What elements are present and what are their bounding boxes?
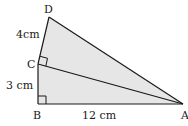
vertex-label-a: A bbox=[180, 109, 188, 122]
vertex-label-d: D bbox=[44, 3, 53, 16]
vertex-label-c: C bbox=[27, 58, 35, 71]
length-label-bc: 3 cm bbox=[6, 79, 34, 92]
length-label-cd: 4cm bbox=[16, 28, 40, 41]
diagram-svg: D C B A 4cm 3 cm 12 cm bbox=[0, 0, 188, 126]
vertex-label-b: B bbox=[33, 109, 41, 122]
shaded-region bbox=[38, 17, 183, 104]
length-label-ab: 12 cm bbox=[82, 109, 117, 122]
geometry-diagram: D C B A 4cm 3 cm 12 cm bbox=[0, 0, 188, 126]
